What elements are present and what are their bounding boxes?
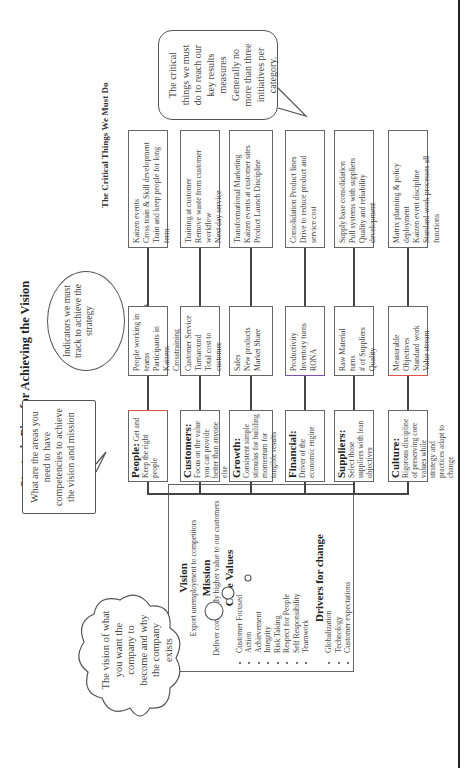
goal-item: New products — [243, 311, 253, 371]
driver-item: Globalization — [324, 493, 334, 653]
core-value-item: Integrity — [263, 493, 273, 653]
capability-label: People: — [129, 443, 141, 478]
connector-capability-goal — [250, 376, 252, 410]
callout-line: do to reach our — [192, 35, 205, 115]
goals-box: Raw Material turns# of SuppliersQuality — [334, 306, 374, 376]
vision-heading: Vision — [179, 493, 189, 663]
goal-item: Market Share — [253, 311, 263, 371]
critical-item: Standard work processes all functions — [422, 135, 442, 243]
goal-item: Value stream — [422, 311, 432, 371]
capabilities-callout: What are the areas you need to have comp… — [22, 400, 96, 514]
capability-box: Customers: Focus on the value you can pr… — [180, 410, 220, 482]
vision-mission-box: Vision Export unemployment to competitor… — [168, 484, 354, 672]
page-title: Strategic Plan for Achieving the Vision — [18, 0, 33, 768]
critical-item: Matrix planning & policy deployment — [392, 135, 412, 243]
goal-item: Inventory turns — [299, 311, 309, 371]
core-values-heading: Core Values — [225, 493, 235, 663]
core-value-item: Action — [244, 493, 254, 653]
core-value-item: Customer Focused — [235, 493, 245, 653]
capability-box: Suppliers: Select those suppliers with l… — [334, 410, 374, 482]
critical-things-callout-text: The criticalthings we mustdo to reach ou… — [167, 35, 280, 115]
core-value-item: Risk Taking — [273, 493, 283, 653]
capability-trunk — [147, 493, 409, 495]
critical-item: Product Launch Discipline — [253, 135, 263, 243]
capability-box: People: Get and Keep the right people — [128, 410, 168, 482]
core-value-item: Achievement — [254, 493, 264, 653]
callout-line: key results — [205, 35, 218, 115]
capability-text: Consistent simple stimulus for building … — [242, 414, 278, 478]
thought-dot-small — [245, 575, 251, 581]
connector-capability-goal — [304, 376, 306, 410]
callout-line: things we must — [180, 35, 193, 115]
capability-label: Customers: — [181, 424, 193, 478]
connector-goal-critical — [304, 248, 306, 306]
mission-text: Deliver continually higher value to our … — [212, 493, 222, 663]
capability-text: Rigorous discipline of preserving core v… — [401, 419, 455, 478]
critical-item: Kaizen events at customer sites — [243, 135, 253, 243]
critical-things-callout: The criticalthings we mustdo to reach ou… — [158, 30, 278, 120]
goal-item: People working in teams — [132, 311, 152, 371]
capability-box: Culture: Rigorous discipline of preservi… — [388, 410, 428, 482]
capability-text: Driver of the economic engine — [298, 426, 316, 478]
capability-text: Select those suppliers with lean objecti… — [347, 421, 374, 478]
strategic-plan-page: Strategic Plan for Achieving the Vision … — [0, 0, 470, 768]
critical-item: Kaizen event discipline — [412, 135, 422, 243]
critical-item: Cross train & Skill development — [142, 135, 152, 243]
critical-item: Train and keep people for long term — [152, 135, 172, 243]
callout-line: measures — [217, 35, 230, 115]
drivers-list: GlobalizationTechnologyCustomer expectat… — [324, 493, 353, 663]
goal-item: Standard work — [412, 311, 422, 371]
goal-item: Productivity — [289, 311, 299, 371]
indicators-callout: Indicators we must track to achieve the … — [47, 271, 125, 371]
core-value-item: Self Responsibility — [292, 493, 302, 653]
connector-capability-goal — [407, 376, 409, 410]
callout-line: more than three — [242, 35, 255, 115]
thought-dot-medium — [222, 587, 234, 599]
critical-item: Training at customer — [184, 135, 194, 243]
thought-dot-large — [205, 602, 223, 620]
capability-label: Financial: — [286, 430, 298, 478]
capability-label: Culture: — [389, 438, 401, 478]
mission-heading: Mission — [202, 493, 212, 663]
goal-item: Total cost to customer — [204, 311, 224, 371]
connector-goal-critical — [407, 248, 409, 306]
critical-item: Next day service — [214, 135, 224, 243]
goals-box: Customer ServiceTurnaroundTotal cost to … — [180, 306, 220, 376]
critical-box: Matrix planning & policy deploymentKaize… — [388, 130, 428, 248]
critical-item: Pull systems with suppliers — [348, 135, 358, 243]
connector-goal-critical — [250, 248, 252, 306]
goals-box: ProductivityInventory turnsRONA — [285, 306, 325, 376]
vision-text: Export unemployment to competitors — [189, 493, 199, 663]
page-border — [458, 0, 460, 768]
goal-item: Quality — [368, 311, 378, 371]
connector-goal-critical — [147, 248, 149, 306]
critical-item: Consolidation Product lines — [289, 135, 299, 243]
goal-item: RONA — [309, 311, 319, 371]
goal-item: Turnaround — [194, 311, 204, 371]
goal-item: Customer Service — [184, 311, 194, 371]
goal-item: Raw Material turns — [338, 311, 358, 371]
critical-item: Supply base consolidation — [338, 135, 348, 243]
callout-line: category. — [267, 35, 280, 115]
critical-item: Drive to reduce product and service cost — [299, 135, 319, 243]
critical-item: Kaizen events — [132, 135, 142, 243]
critical-box: Consolidation Product linesDrive to redu… — [285, 130, 325, 248]
driver-item: Technology — [334, 493, 344, 653]
callout-line: initiatives per — [255, 35, 268, 115]
connector-goal-critical — [353, 248, 355, 306]
capability-box: Financial: Driver of the economic engine — [285, 410, 325, 482]
critical-box: Supply base consolidationPull systems wi… — [334, 130, 374, 248]
capability-label: Growth: — [230, 438, 242, 478]
goal-item: Sales — [233, 311, 243, 371]
capability-label: Suppliers: — [335, 430, 347, 478]
critical-box: Transformational MarketingKaizen events … — [229, 130, 273, 248]
connector-capability-goal — [199, 376, 201, 410]
capability-text: Focus on the value you can provide bette… — [193, 421, 229, 478]
goals-box: People working in teamsParticipants in K… — [128, 306, 168, 376]
critical-item: Transformational Marketing — [233, 135, 243, 243]
goal-item: # of Suppliers — [358, 311, 368, 371]
connector-goal-critical — [199, 248, 201, 306]
critical-box: Training at customerRemove waste from cu… — [180, 130, 220, 248]
connector-capability-goal — [147, 376, 149, 410]
core-value-item: Teamwork — [301, 493, 311, 653]
